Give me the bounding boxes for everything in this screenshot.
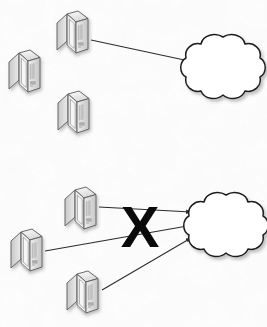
diagram-svg: X	[0, 0, 267, 327]
multi-connection-blocked-panel: X	[11, 187, 267, 316]
server-node[interactable]	[67, 271, 98, 316]
server-node[interactable]	[58, 91, 89, 136]
server-node[interactable]	[65, 187, 96, 232]
connection-arrow[interactable]	[91, 40, 189, 61]
blocked-x-mark: X	[121, 194, 160, 259]
server-node[interactable]	[57, 11, 88, 56]
diagram-canvas: X	[0, 0, 267, 327]
single-connection-panel	[9, 11, 265, 136]
connection-arrow[interactable]	[45, 225, 193, 251]
network-cloud[interactable]	[184, 193, 267, 257]
network-cloud[interactable]	[181, 35, 266, 99]
server-node[interactable]	[11, 229, 42, 274]
server-node[interactable]	[9, 50, 40, 95]
